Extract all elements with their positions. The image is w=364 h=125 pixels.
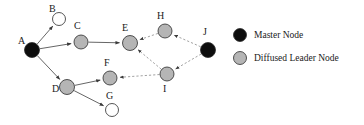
edge-i-to-f xyxy=(120,75,160,78)
node-e[interactable] xyxy=(123,36,138,51)
edge-i-to-e xyxy=(138,50,161,69)
node-j[interactable] xyxy=(201,43,216,58)
node-label-h: H xyxy=(157,10,164,21)
edge-h-to-e xyxy=(140,33,158,39)
node-label-g: G xyxy=(106,90,113,101)
node-g[interactable] xyxy=(106,104,119,117)
edge-a-to-b xyxy=(37,26,53,44)
node-c[interactable] xyxy=(74,35,88,49)
edge-a-to-d xyxy=(37,56,59,80)
node-label-i: I xyxy=(163,83,166,94)
node-label-b: B xyxy=(49,3,56,14)
legend-label-master: Master Node xyxy=(254,30,303,40)
node-a[interactable] xyxy=(25,43,40,58)
legend-marker-master xyxy=(234,29,247,42)
graph-canvas: ABCDEFGHIJ Master NodeDiffused Leader No… xyxy=(0,0,364,125)
node-label-j: J xyxy=(203,26,207,37)
edge-d-to-g xyxy=(74,91,103,106)
node-label-a: A xyxy=(18,35,26,46)
node-label-f: F xyxy=(104,57,110,68)
edge-a-to-c xyxy=(40,44,71,49)
legend: Master NodeDiffused Leader Node xyxy=(234,29,339,65)
edge-j-to-h xyxy=(174,35,201,47)
edge-d-to-f xyxy=(75,80,100,85)
nodes-layer: ABCDEFGHIJ xyxy=(18,3,216,117)
edge-c-to-e xyxy=(88,42,119,43)
node-d[interactable] xyxy=(60,80,75,95)
node-f[interactable] xyxy=(103,71,117,85)
network-diagram-figure: ABCDEFGHIJ Master NodeDiffused Leader No… xyxy=(0,0,364,125)
node-label-c: C xyxy=(74,20,81,31)
legend-label-diffused-leader: Diffused Leader Node xyxy=(254,53,339,63)
node-h[interactable] xyxy=(158,24,172,38)
node-label-e: E xyxy=(122,22,128,33)
legend-marker-diffused-leader xyxy=(234,52,247,65)
edge-j-to-i xyxy=(176,54,201,69)
edges-layer xyxy=(37,26,201,106)
node-b[interactable] xyxy=(53,13,66,26)
node-i[interactable] xyxy=(160,67,174,81)
node-label-d: D xyxy=(52,83,59,94)
